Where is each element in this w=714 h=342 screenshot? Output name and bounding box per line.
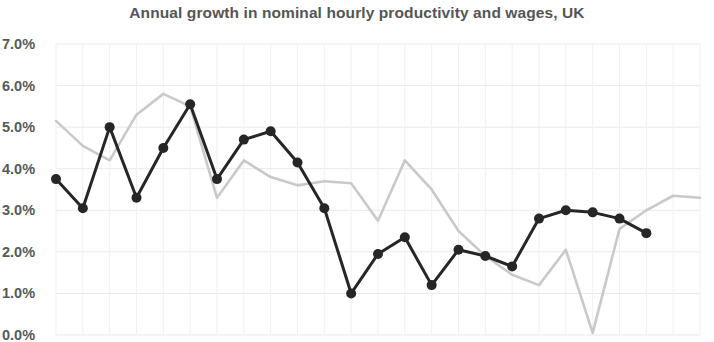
y-axis-tick-label: 2.0%	[2, 244, 35, 260]
data-point-marker	[507, 261, 517, 271]
data-point-marker	[561, 205, 571, 215]
y-axis-tick-label: 7.0%	[2, 36, 35, 52]
y-axis-tick-label: 0.0%	[2, 327, 35, 342]
data-point-marker	[427, 280, 437, 290]
data-point-marker	[78, 203, 88, 213]
data-point-marker	[588, 207, 598, 217]
data-point-marker	[132, 193, 142, 203]
chart-svg	[0, 0, 714, 342]
data-point-marker	[158, 143, 168, 153]
y-axis-tick-label: 5.0%	[2, 119, 35, 135]
data-point-marker	[319, 203, 329, 213]
data-point-marker	[105, 122, 115, 132]
data-point-marker	[641, 228, 651, 238]
y-axis-tick-label: 3.0%	[2, 202, 35, 218]
y-axis-tick-label: 1.0%	[2, 285, 35, 301]
data-point-marker	[185, 99, 195, 109]
data-point-marker	[346, 288, 356, 298]
data-point-marker	[373, 249, 383, 259]
data-point-marker	[293, 157, 303, 167]
data-point-marker	[212, 174, 222, 184]
data-point-marker	[51, 174, 61, 184]
data-point-marker	[534, 214, 544, 224]
data-series-layer	[51, 94, 700, 333]
data-point-marker	[454, 245, 464, 255]
data-point-marker	[615, 214, 625, 224]
data-point-marker	[266, 126, 276, 136]
y-axis-tick-label: 6.0%	[2, 78, 35, 94]
y-axis-tick-label: 4.0%	[2, 161, 35, 177]
data-point-marker	[239, 135, 249, 145]
data-point-marker	[480, 251, 490, 261]
chart-container: Annual growth in nominal hourly producti…	[0, 0, 714, 342]
data-point-marker	[400, 232, 410, 242]
plot-area	[0, 0, 714, 342]
